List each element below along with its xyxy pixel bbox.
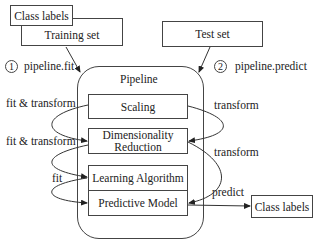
- connector-arrows: [0, 0, 315, 246]
